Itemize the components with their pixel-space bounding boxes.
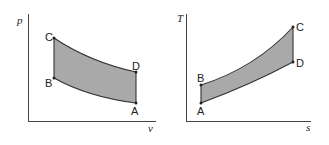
ts-point-d	[292, 61, 295, 64]
ts-label-d: D	[296, 57, 304, 69]
pv-label-d: D	[132, 60, 140, 72]
pv-label-a: A	[131, 105, 139, 117]
ts-x-axis-label: s	[306, 121, 310, 133]
ts-y-axis-label: T	[177, 12, 184, 24]
pv-cycle-region	[54, 38, 136, 103]
pv-point-b	[53, 77, 56, 80]
ts-label-c: C	[296, 21, 304, 33]
pv-label-c: C	[45, 31, 53, 43]
ts-cycle-region	[201, 27, 293, 103]
pv-diagram: p v C B D A	[16, 14, 156, 134]
diagram-canvas: p v C B D A T s B A C D	[0, 0, 329, 145]
ts-label-a: A	[197, 105, 205, 117]
ts-point-c	[292, 26, 295, 29]
Ts-diagram: T s B A C D	[177, 12, 311, 133]
pv-x-axis-label: v	[148, 122, 153, 134]
pv-y-axis-label: p	[16, 14, 23, 26]
ts-label-b: B	[197, 72, 204, 84]
pv-label-b: B	[45, 77, 52, 89]
